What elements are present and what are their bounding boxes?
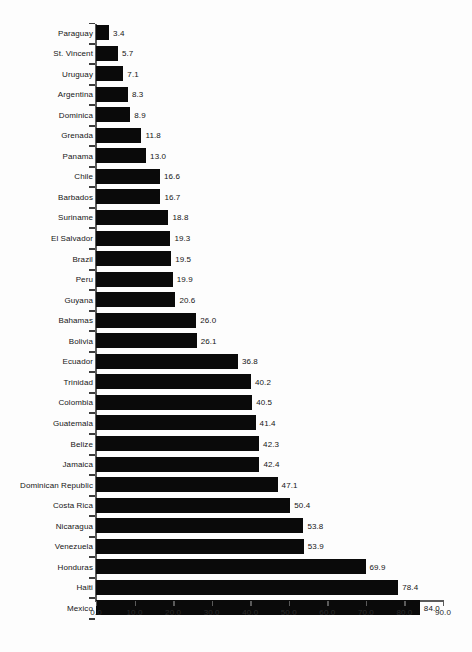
category-tick <box>89 166 95 168</box>
category-tick <box>89 63 95 65</box>
bar-value-label: 13.0 <box>150 151 166 160</box>
value-tick-label: 10.0 <box>127 608 143 617</box>
bar-row: Chile16.6 <box>0 169 472 184</box>
value-tick <box>366 601 367 606</box>
bar-value-label: 26.0 <box>200 316 216 325</box>
value-tick <box>289 601 290 606</box>
bar-row: Venezuela53.9 <box>0 539 472 554</box>
category-label: Venezuela <box>55 542 93 551</box>
bar-value-label: 53.8 <box>307 521 323 530</box>
value-tick <box>250 601 251 606</box>
bar <box>96 313 196 328</box>
value-tick <box>327 601 328 606</box>
bar <box>96 251 171 266</box>
category-label: Costa Rica <box>53 501 93 510</box>
category-label: Bolivia <box>69 336 93 345</box>
bar-value-label: 78.4 <box>402 583 418 592</box>
category-tick <box>89 269 95 271</box>
bar-value-label: 53.9 <box>308 542 324 551</box>
value-tick-label: 0.0 <box>90 608 101 617</box>
category-tick <box>89 186 95 188</box>
bar <box>96 25 109 40</box>
category-label: Suriname <box>58 213 93 222</box>
bar-value-label: 3.4 <box>113 28 124 37</box>
category-tick <box>89 145 95 147</box>
bar-value-label: 19.3 <box>174 234 190 243</box>
bar <box>96 333 197 348</box>
bar-value-label: 69.9 <box>370 562 386 571</box>
category-tick <box>89 104 95 106</box>
bar <box>96 46 118 61</box>
category-label: Grenada <box>61 131 93 140</box>
value-tick-label: 70.0 <box>358 608 374 617</box>
category-tick <box>89 23 95 25</box>
category-label: Chile <box>74 172 93 181</box>
bar-row: Dominican Republic47.1 <box>0 477 472 492</box>
value-tick <box>173 601 174 606</box>
category-tick <box>89 495 95 497</box>
bar-value-label: 8.9 <box>134 110 145 119</box>
category-tick <box>89 84 95 86</box>
category-tick <box>89 433 95 435</box>
bar-value-label: 19.9 <box>177 275 193 284</box>
bar <box>96 292 175 307</box>
category-label: Peru <box>76 275 93 284</box>
bar-value-label: 47.1 <box>282 480 298 489</box>
category-label: Dominica <box>59 110 93 119</box>
category-label: Colombia <box>58 398 93 407</box>
bar-row: Guatemala41.4 <box>0 415 472 430</box>
bar <box>96 580 398 595</box>
bar-row: Ecuador36.8 <box>0 354 472 369</box>
bar <box>96 189 160 204</box>
value-tick-label: 90.0 <box>435 608 451 617</box>
bar-value-label: 5.7 <box>122 49 133 58</box>
category-label: Paraguay <box>58 28 93 37</box>
category-tick <box>89 618 95 620</box>
bar-row: Argentina8.3 <box>0 87 472 102</box>
category-label: Panama <box>63 151 93 160</box>
bar <box>96 107 130 122</box>
category-label: Bahamas <box>59 316 94 325</box>
bar-row: Barbados16.7 <box>0 189 472 204</box>
category-label: Guyana <box>64 295 93 304</box>
bar-row: Honduras69.9 <box>0 559 472 574</box>
bar <box>96 395 252 410</box>
bar-chart: Paraguay3.4St. Vincent5.7Uruguay7.1Argen… <box>0 0 472 652</box>
bar-row: Paraguay3.4 <box>0 25 472 40</box>
bar-value-label: 18.8 <box>172 213 188 222</box>
bar <box>96 148 146 163</box>
bar <box>96 477 278 492</box>
value-tick <box>96 601 97 606</box>
category-tick <box>89 227 95 229</box>
category-tick <box>89 577 95 579</box>
value-tick <box>135 601 136 606</box>
bar-value-label: 41.4 <box>260 418 276 427</box>
bar <box>96 87 128 102</box>
bar-value-label: 16.6 <box>164 172 180 181</box>
category-tick <box>89 125 95 127</box>
bar <box>96 66 123 81</box>
category-label: Dominican Republic <box>20 480 93 489</box>
category-tick <box>89 474 95 476</box>
category-tick <box>89 454 95 456</box>
bar-row: Belize42.3 <box>0 436 472 451</box>
bar-row: Suriname18.8 <box>0 210 472 225</box>
category-tick <box>89 371 95 373</box>
category-label: Brazil <box>72 254 93 263</box>
bar-value-label: 50.4 <box>294 501 310 510</box>
category-tick <box>89 536 95 538</box>
bar <box>96 457 259 472</box>
bar-row: Panama13.0 <box>0 148 472 163</box>
category-tick <box>89 248 95 250</box>
bar-value-label: 36.8 <box>242 357 258 366</box>
category-tick <box>89 351 95 353</box>
bar <box>96 436 259 451</box>
bar <box>96 354 238 369</box>
bar-row: Costa Rica50.4 <box>0 498 472 513</box>
bar-row: Jamaica42.4 <box>0 457 472 472</box>
bar-row: Trinidad40.2 <box>0 374 472 389</box>
value-tick <box>404 601 405 606</box>
bar-value-label: 7.1 <box>127 69 138 78</box>
category-label: Barbados <box>58 192 93 201</box>
bar-row: Bolivia26.1 <box>0 333 472 348</box>
